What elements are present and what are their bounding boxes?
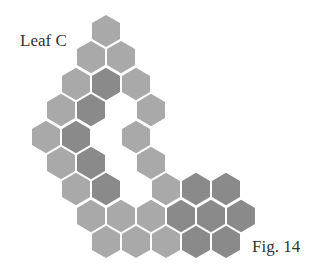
hex-cell-light (62, 173, 90, 205)
hex-cell-light (62, 68, 90, 100)
hex-cell-light (92, 226, 120, 258)
hex-cell-dark (77, 94, 105, 126)
hex-cell-light (77, 41, 105, 73)
hex-cell-light (122, 68, 150, 100)
hex-cell-light (152, 173, 180, 205)
hex-cell-light (107, 200, 135, 232)
hex-cell-light (32, 121, 60, 153)
hex-cell-light (122, 121, 150, 153)
hex-cell-light (122, 226, 150, 258)
hex-cell-dark (197, 200, 225, 232)
figure-caption-label: Fig. 14 (252, 238, 300, 255)
hex-cell-light (137, 147, 165, 179)
leaf-title-label: Leaf C (20, 32, 67, 49)
hex-cell-light (47, 94, 75, 126)
hex-cell-dark (212, 226, 240, 258)
hex-cell-dark (182, 173, 210, 205)
hex-cell-light (137, 94, 165, 126)
hex-cell-light (152, 226, 180, 258)
hex-cell-light (77, 200, 105, 232)
hex-cell-dark (62, 121, 90, 153)
hex-cell-light (137, 200, 165, 232)
hex-cell-light (47, 147, 75, 179)
hex-cell-dark (227, 200, 255, 232)
hex-cell-dark (182, 226, 210, 258)
hex-cell-dark (92, 68, 120, 100)
hex-cell-dark (212, 173, 240, 205)
hex-cell-dark (92, 173, 120, 205)
hex-cell-dark (167, 200, 195, 232)
hex-cell-light (92, 15, 120, 47)
hex-cell-light (107, 41, 135, 73)
hex-cell-dark (77, 147, 105, 179)
